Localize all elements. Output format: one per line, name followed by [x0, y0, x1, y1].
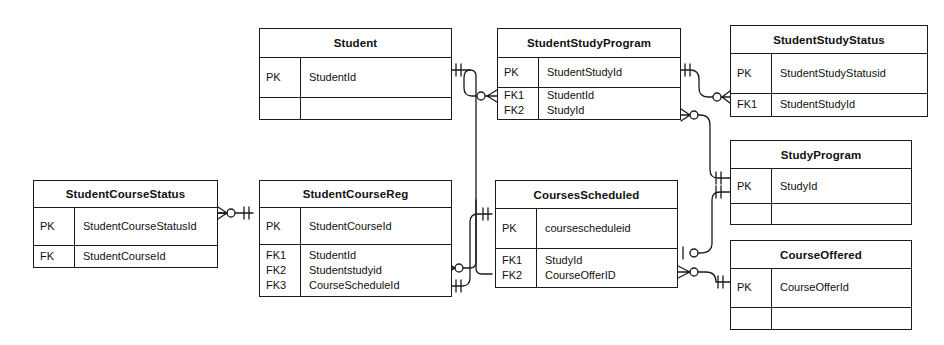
entity-course-offered-title: CourseOffered [731, 241, 911, 269]
entity-sss-fk-namecol: StudentStudyId [772, 94, 927, 117]
entity-co-fk-section [731, 307, 911, 330]
marker-ssp-fk2-many [681, 109, 690, 121]
entity-co-pk-namecol: CourseOfferId [772, 269, 911, 307]
entity-student-fk-namecol [301, 98, 451, 120]
entity-student-pk-keycol: PK [260, 58, 301, 97]
entity-sp-fk-section [731, 203, 911, 224]
entity-ssp-fk-keycol: FK1 FK2 [498, 88, 539, 120]
attribute-label: CourseOfferID [545, 268, 677, 283]
entity-student-course-status-title: StudentCourseStatus [34, 181, 217, 208]
key-label: FK [40, 249, 74, 264]
entity-scr-pk-namecol: StudentCourseId [301, 208, 451, 244]
entity-student-study-program[interactable]: StudentStudyProgram PK StudentStudyId FK… [497, 28, 681, 120]
connector-ssp-to-sss [681, 70, 722, 97]
key-label: FK1 [737, 97, 771, 112]
connector-student-to-studentcoursereg [463, 200, 476, 268]
entity-sp-pk-section: PK StudyId [731, 169, 911, 203]
key-label: PK [502, 221, 536, 236]
key-label: FK1 [266, 248, 300, 263]
entity-sss-fk-section: FK1 StudentStudyId [731, 93, 927, 117]
attribute-label: CourseScheduleId [309, 278, 451, 293]
er-diagram-canvas: Student PK StudentId StudentStudyProgram… [0, 0, 944, 345]
entity-scs-pk-keycol: PK [34, 208, 75, 245]
entity-sss-pk-keycol: PK [731, 54, 772, 93]
entity-sp-fk-keycol [731, 204, 772, 224]
entity-scr-fk-keycol: FK1 FK2 FK3 [260, 245, 301, 296]
entity-scr-fk-namecol: StudentId Studentstudyid CourseScheduleI… [301, 245, 451, 296]
entity-sp-pk-keycol: PK [731, 169, 772, 203]
entity-scr-pk-keycol: PK [260, 208, 301, 244]
entity-cs-pk-namecol: coursescheduleid [537, 209, 677, 248]
entity-study-program-title: StudyProgram [731, 141, 911, 169]
marker-studentcoursereg-pk-one [244, 207, 249, 219]
marker-sss-fk-optional [713, 93, 721, 101]
entity-sp-pk-namecol: StudyId [772, 169, 911, 203]
attribute-label: StudentCourseStatusId [83, 219, 217, 234]
marker-courseoffered-pk-one [718, 276, 723, 288]
attribute-label: StudentCourseId [309, 219, 451, 234]
entity-student-course-status[interactable]: StudentCourseStatus PK StudentCourseStat… [33, 180, 218, 268]
key-label: PK [40, 219, 74, 234]
marker-sss-fk-many [722, 91, 730, 103]
marker-ssp-fk2-optional [690, 111, 698, 119]
marker-ssp-pk-one [685, 64, 690, 76]
key-label: FK1 [504, 88, 538, 103]
connector-studyprogram-to-coursesscheduled [690, 192, 730, 253]
entity-cs-pk-section: PK coursescheduleid [496, 209, 677, 248]
entity-co-pk-keycol: PK [731, 269, 772, 307]
entity-student-title: Student [260, 29, 451, 58]
attribute-label: Studentstudyid [309, 263, 451, 278]
entity-ssp-pk-namecol: StudentStudyId [539, 58, 680, 87]
entity-student-course-reg[interactable]: StudentCourseReg PK StudentCourseId FK1 … [259, 180, 452, 297]
attribute-label: StudentId [309, 70, 451, 85]
entity-co-fk-namecol [772, 308, 911, 330]
entity-courses-scheduled[interactable]: CoursesScheduled PK coursescheduleid FK1… [495, 180, 678, 288]
entity-scs-pk-section: PK StudentCourseStatusId [34, 208, 217, 245]
entity-courses-scheduled-title: CoursesScheduled [496, 181, 677, 209]
entity-student-course-reg-title: StudentCourseReg [260, 181, 451, 208]
attribute-label: StudyId [545, 253, 677, 268]
marker-studentcoursereg-fk3-one [456, 280, 461, 292]
entity-cs-fk-keycol: FK1 FK2 [496, 249, 537, 288]
entity-co-fk-keycol [731, 308, 772, 330]
marker-coursesscheduled-pk-one [483, 208, 488, 220]
key-label: PK [737, 179, 771, 194]
entity-ssp-pk-keycol: PK [498, 58, 539, 87]
entity-study-program[interactable]: StudyProgram PK StudyId [730, 140, 912, 225]
entity-scr-fk-section: FK1 FK2 FK3 StudentId Studentstudyid Cou… [260, 244, 451, 296]
entity-student[interactable]: Student PK StudentId [259, 28, 452, 120]
connector-student-to-studentstudyprogram [464, 70, 487, 96]
key-label: FK2 [502, 268, 536, 283]
key-label: PK [737, 280, 771, 295]
key-label: FK2 [504, 103, 538, 118]
marker-scs-many [218, 207, 227, 219]
entity-sss-pk-namecol: StudentStudyStatusid [772, 54, 927, 93]
key-label: PK [266, 219, 300, 234]
attribute-label: CourseOfferId [780, 280, 911, 295]
key-label: PK [266, 70, 300, 85]
entity-cs-fk-namecol: StudyId CourseOfferID [537, 249, 677, 288]
marker-ssp-fk-optional [477, 92, 485, 100]
key-label: FK3 [266, 278, 300, 293]
entity-course-offered[interactable]: CourseOffered PK CourseOfferId [730, 240, 912, 330]
key-label: PK [504, 65, 538, 80]
entity-student-study-status-title: StudentStudyStatus [731, 26, 927, 54]
attribute-label: StudyId [547, 103, 680, 118]
attribute-label: StudentStudyStatusid [780, 66, 927, 81]
marker-scr-fk2-optional [455, 264, 463, 272]
entity-student-study-status[interactable]: StudentStudyStatus PK StudentStudyStatus… [730, 25, 928, 117]
entity-sss-pk-section: PK StudentStudyStatusid [731, 54, 927, 93]
entity-ssp-fk-namecol: StudentId StudyId [539, 88, 680, 120]
marker-cs-fk1-optional [690, 249, 698, 257]
entity-ssp-pk-section: PK StudentStudyId [498, 58, 680, 87]
connector-studyprogram-to-ssp [690, 115, 730, 178]
entity-scs-fk-keycol: FK [34, 246, 75, 268]
marker-student-pk-one [456, 64, 461, 76]
key-label: PK [737, 66, 771, 81]
entity-scs-pk-namecol: StudentCourseStatusId [75, 208, 217, 245]
marker-ssp-fk-many [487, 90, 497, 102]
attribute-label: StudentId [547, 88, 680, 103]
entity-sss-fk-keycol: FK1 [731, 94, 772, 117]
entity-cs-fk-section: FK1 FK2 StudyId CourseOfferID [496, 248, 677, 288]
entity-student-pk-namecol: StudentId [301, 58, 451, 97]
